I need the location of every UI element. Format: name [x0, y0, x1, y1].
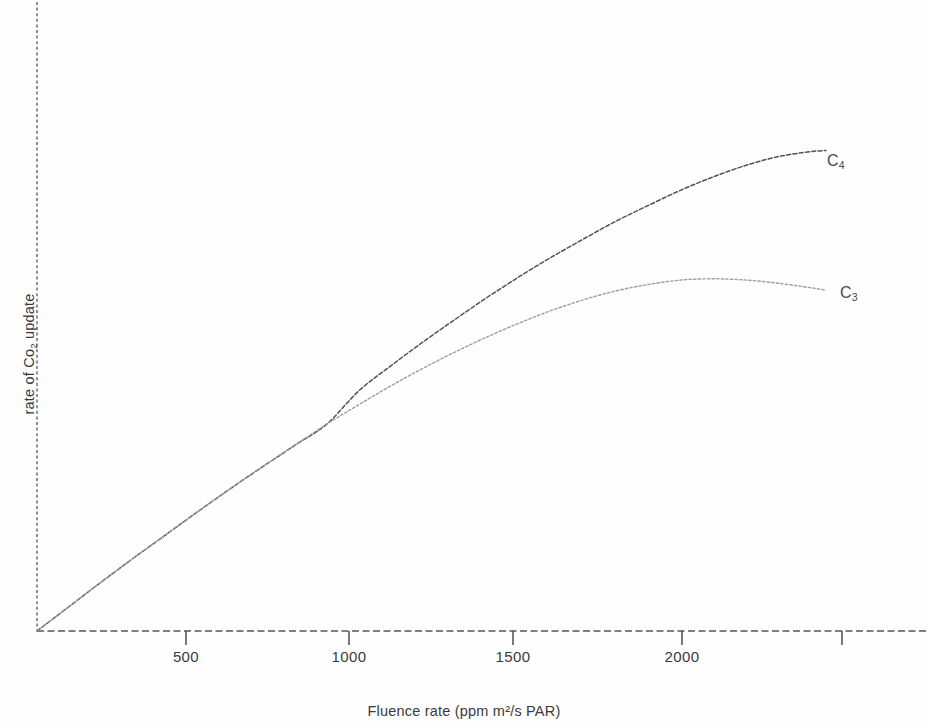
- x-tick-label-1500: 1500: [478, 648, 548, 665]
- y-axis-title-suffix: update: [21, 294, 37, 344]
- curve-label-c4-subscript: 4: [839, 159, 845, 171]
- curve-label-c4: C4: [827, 152, 845, 170]
- x-tick-label-500: 500: [151, 648, 221, 665]
- x-axis-ticks: [186, 631, 842, 645]
- chart-figure: 500 1000 1500 2000 Fluence rate (ppm m²/…: [0, 0, 928, 726]
- plot-canvas: [0, 0, 928, 726]
- x-tick-label-1000: 1000: [314, 648, 384, 665]
- y-axis-title-prefix: rate of Co: [21, 349, 37, 415]
- curve-label-c3: C3: [840, 284, 858, 302]
- x-axis-title: Fluence rate (ppm m²/s PAR): [0, 703, 928, 719]
- y-axis-title: rate of Co2 update: [21, 254, 37, 454]
- curve-c4: [37, 150, 826, 631]
- curve-label-c4-prefix: C: [827, 152, 839, 169]
- x-tick-label-2000: 2000: [647, 648, 717, 665]
- curve-label-c3-prefix: C: [840, 284, 852, 301]
- curve-c3: [37, 279, 826, 631]
- curve-label-c3-subscript: 3: [852, 291, 858, 303]
- y-axis-title-subscript: 2: [28, 343, 39, 349]
